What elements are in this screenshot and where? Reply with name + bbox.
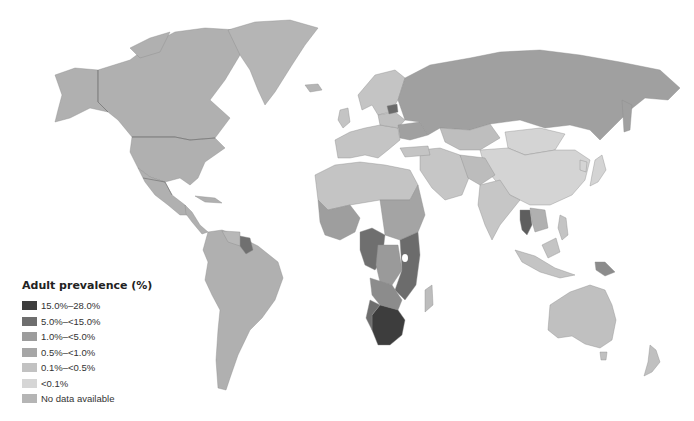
legend-item: <0.1%: [22, 376, 152, 392]
legend-label: 5.0%–<15.0%: [41, 316, 100, 327]
legend-item: 0.5%–<1.0%: [22, 345, 152, 361]
region-borneo: [542, 238, 560, 258]
lake-victoria: [402, 254, 408, 262]
legend: Adult prevalence (%) 15.0%–28.0% 5.0%–<1…: [22, 279, 152, 407]
legend-swatch: [22, 379, 37, 388]
legend-label: 0.5%–<1.0%: [41, 347, 95, 358]
legend-label: <0.1%: [41, 378, 68, 389]
legend-swatch: [22, 332, 37, 341]
legend-item: 0.1%–<0.5%: [22, 360, 152, 376]
region-uk: [338, 108, 350, 128]
legend-item: No data available: [22, 391, 152, 407]
region-central-america: [185, 205, 208, 234]
region-philippines: [558, 215, 568, 240]
region-baltics: [387, 104, 398, 114]
region-south-america: [203, 230, 283, 390]
region-iceland: [305, 84, 322, 92]
region-madagascar: [425, 285, 433, 312]
legend-label: 1.0%–<5.0%: [41, 331, 95, 342]
region-papua-new-guinea: [595, 262, 615, 276]
region-indonesia: [515, 250, 575, 278]
region-southern-africa: [372, 305, 405, 345]
region-tasmania: [600, 352, 607, 360]
region-canada: [98, 28, 240, 140]
legend-swatch: [22, 363, 37, 372]
legend-swatch: [22, 301, 37, 310]
legend-item: 15.0%–28.0%: [22, 298, 152, 314]
region-turkey: [400, 146, 430, 157]
legend-swatch: [22, 394, 37, 403]
legend-item: 5.0%–<15.0%: [22, 314, 152, 330]
region-thailand: [520, 210, 532, 235]
region-western-europe: [335, 125, 400, 158]
legend-swatch: [22, 317, 37, 326]
region-cuba: [195, 196, 222, 203]
legend-swatch: [22, 348, 37, 357]
region-new-zealand: [644, 345, 660, 376]
region-russia: [398, 50, 680, 140]
legend-title: Adult prevalence (%): [22, 279, 152, 292]
legend-label: 0.1%–<0.5%: [41, 362, 95, 373]
legend-item: 1.0%–<5.0%: [22, 329, 152, 345]
legend-label: 15.0%–28.0%: [41, 300, 100, 311]
region-korea: [580, 160, 587, 172]
region-greenland: [228, 20, 318, 105]
legend-label: No data available: [41, 393, 114, 404]
region-japan: [590, 155, 606, 186]
region-scandinavia: [358, 70, 405, 115]
region-australia: [548, 285, 616, 348]
region-kamchatka: [622, 100, 632, 132]
region-drc: [376, 245, 402, 285]
region-indochina: [530, 208, 548, 232]
